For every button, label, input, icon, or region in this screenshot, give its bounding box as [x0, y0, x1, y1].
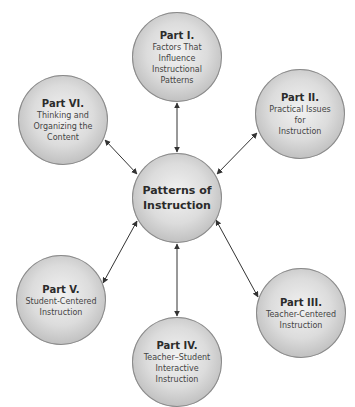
part-6-subtitle-3: Content	[47, 132, 79, 143]
part-3-title: Part III.	[280, 296, 322, 309]
part-5-subtitle-2: Instruction	[40, 307, 83, 318]
part-6-subtitle-1: Thinking and	[37, 110, 89, 121]
part-1-subtitle-2: Influence	[159, 53, 196, 64]
part-5-subtitle-1: Student-Centered	[25, 296, 96, 307]
part-2-subtitle-3: Instruction	[279, 126, 322, 137]
part-1-title: Part I.	[160, 29, 195, 42]
part-4-subtitle-2: Interactive	[155, 363, 198, 374]
arrow-part-6	[105, 140, 137, 174]
part-2-subtitle-2: for	[295, 115, 306, 126]
part-4-subtitle-3: Instruction	[156, 374, 199, 385]
center-label-1: Patterns of	[142, 183, 211, 198]
part-5-title: Part V.	[42, 283, 79, 296]
node-part-3: Part III. Teacher-Centered Instruction	[256, 268, 346, 358]
node-part-5: Part V. Student-Centered Instruction	[16, 255, 106, 345]
part-6-title: Part VI.	[42, 97, 84, 110]
part-1-subtitle-3: Instructional	[152, 64, 202, 75]
part-1-subtitle-1: Factors That	[152, 42, 201, 53]
part-2-subtitle-1: Practical Issues	[269, 104, 331, 115]
node-part-2: Part II. Practical Issues for Instructio…	[255, 69, 345, 159]
part-2-title: Part II.	[281, 91, 319, 104]
part-4-title: Part IV.	[157, 339, 198, 352]
part-6-subtitle-2: Organizing the	[34, 121, 93, 132]
arrow-part-5	[103, 221, 137, 283]
node-center: Patterns of Instruction	[132, 153, 222, 243]
node-part-6: Part VI. Thinking and Organizing the Con…	[18, 75, 108, 165]
arrow-part-2	[217, 133, 257, 174]
center-label-2: Instruction	[143, 198, 211, 213]
node-part-1: Part I. Factors That Influence Instructi…	[132, 12, 222, 102]
arrow-part-3-line	[216, 220, 258, 297]
part-3-subtitle-2: Instruction	[280, 320, 323, 331]
part-3-subtitle-1: Teacher-Centered	[266, 309, 336, 320]
node-part-4: Part IV. Teacher–Student Interactive Ins…	[132, 317, 222, 407]
part-1-subtitle-4: Patterns	[161, 75, 194, 86]
part-4-subtitle-1: Teacher–Student	[144, 352, 211, 363]
